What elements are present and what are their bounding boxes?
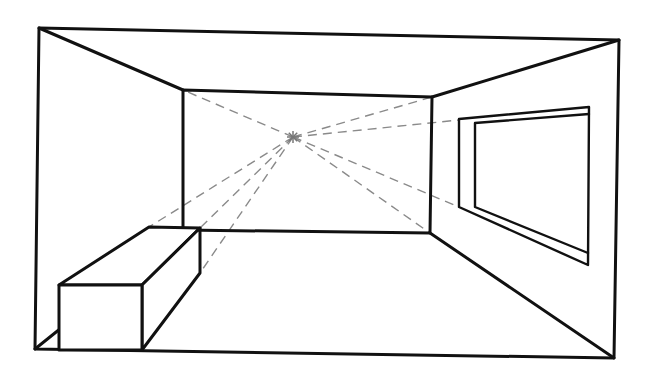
- construction-line: [293, 137, 430, 233]
- construction-line: [183, 90, 293, 137]
- ceiling-left-edge: [39, 28, 183, 90]
- construction-line: [149, 137, 293, 227]
- vanishing-point-icon: [287, 131, 299, 143]
- window-inner-frame: [475, 114, 589, 253]
- window-outer-frame: [459, 107, 589, 265]
- construction-line: [200, 137, 293, 228]
- ceiling-right-edge: [432, 40, 619, 97]
- construction-line: [200, 137, 293, 273]
- perspective-room-diagram: [0, 0, 647, 371]
- window: [459, 107, 589, 265]
- box-front-face: [59, 285, 142, 350]
- construction-line: [293, 97, 432, 137]
- box: [59, 227, 200, 350]
- construction-line: [293, 120, 459, 137]
- construction-line: [293, 137, 459, 207]
- back-wall: [183, 90, 432, 233]
